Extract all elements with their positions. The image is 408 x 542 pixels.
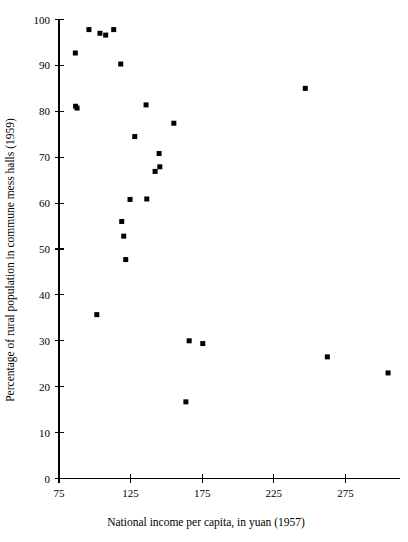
data-point-marker [94,312,99,317]
data-point-marker [183,399,188,404]
data-point-marker [386,370,391,375]
x-axis-title: National income per capita, in yuan (195… [107,516,305,529]
scatter-chart: 0102030405060708090100 75125175225275 Na… [0,0,408,542]
data-point-marker [123,257,128,262]
data-point-marker [153,169,158,174]
x-tick-label: 175 [194,487,211,499]
y-axis: 0102030405060708090100 [34,14,64,485]
x-tick-label: 75 [54,487,66,499]
data-point-marker [187,338,192,343]
y-tick-label: 100 [34,14,51,26]
data-point-marker [303,86,308,91]
y-tick-label: 90 [39,59,51,71]
data-point-marker [121,234,126,239]
data-point-marker [73,51,78,56]
data-point-marker [75,106,80,111]
data-point-marker [118,62,123,67]
y-tick-label: 0 [45,473,51,485]
y-tick-label: 50 [39,243,51,255]
data-point-marker [103,33,108,38]
data-point-marker [157,151,162,156]
plot-area: 0102030405060708090100 75125175225275 Na… [0,0,408,542]
x-tick-label: 125 [122,487,139,499]
y-tick-label: 80 [39,105,51,117]
x-axis: 75125175225275 [54,474,401,499]
y-tick-label: 40 [39,289,51,301]
data-point-marker [97,31,102,36]
data-point-marker [157,164,162,169]
data-point-marker [128,197,133,202]
data-point-marker [144,196,149,201]
data-point-marker [119,219,124,224]
data-point-marker [200,341,205,346]
data-points [73,27,391,404]
y-tick-label: 70 [39,151,51,163]
data-point-marker [132,134,137,139]
data-point-marker [111,27,116,32]
data-point-marker [171,121,176,126]
y-tick-label: 10 [39,427,51,439]
data-point-marker [325,354,330,359]
data-point-marker [144,102,149,107]
y-axis-title: Percentage of rural population in commun… [4,118,17,402]
y-tick-label: 30 [39,335,51,347]
y-tick-label: 60 [39,197,51,209]
x-tick-label: 275 [337,487,354,499]
y-tick-label: 20 [39,381,51,393]
data-point-marker [86,27,91,32]
x-tick-label: 225 [266,487,283,499]
